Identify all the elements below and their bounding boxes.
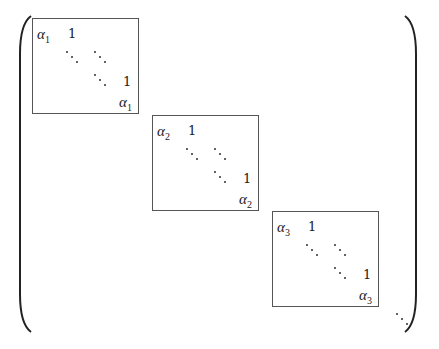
block3-superdiag-one: 1 <box>308 220 316 233</box>
block1-ddots-lower <box>93 73 107 87</box>
jordan-block-1: α1 1 1 α1 <box>32 18 139 114</box>
block1-top-eigenvalue: α1 <box>37 27 50 45</box>
jordan-block-3: α3 1 1 α3 <box>272 211 379 307</box>
block3-lower-one: 1 <box>363 268 371 281</box>
trailing-ddots <box>395 312 409 326</box>
block1-superdiag-one: 1 <box>68 27 76 40</box>
block1-lower-one: 1 <box>123 75 131 88</box>
block2-ddots-diag <box>185 147 199 161</box>
block3-ddots-lower <box>333 266 347 280</box>
block1-ddots-super <box>93 50 107 64</box>
block2-bottom-eigenvalue: α2 <box>239 192 252 210</box>
block2-ddots-lower <box>213 170 227 184</box>
block2-top-eigenvalue: α2 <box>157 124 170 142</box>
block1-ddots-diag <box>65 50 79 64</box>
block3-ddots-super <box>333 243 347 257</box>
jordan-block-2: α2 1 1 α2 <box>152 115 259 211</box>
block3-bottom-eigenvalue: α3 <box>359 288 372 306</box>
block2-ddots-super <box>213 147 227 161</box>
block3-ddots-diag <box>305 243 319 257</box>
right-parenthesis <box>402 14 422 334</box>
block2-superdiag-one: 1 <box>188 124 196 137</box>
left-parenthesis <box>14 14 34 334</box>
block2-lower-one: 1 <box>243 172 251 185</box>
block1-bottom-eigenvalue: α1 <box>119 95 132 113</box>
block3-top-eigenvalue: α3 <box>277 220 290 238</box>
